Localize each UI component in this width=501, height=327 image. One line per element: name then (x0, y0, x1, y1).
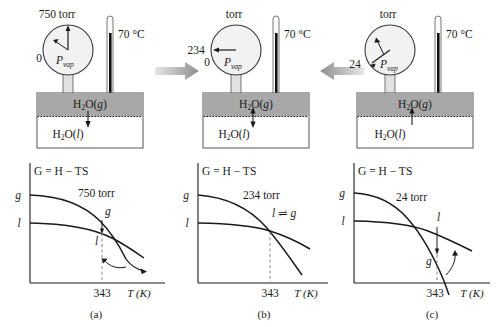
liquid-curve-label-a: l (95, 235, 98, 247)
gas-curve-label-a: g (105, 205, 111, 218)
liquid-phase-label-c: H2O(l) (374, 128, 405, 142)
process-direction-arc-c (446, 253, 455, 275)
gas-curve-c (354, 193, 449, 295)
panel-caption-b: (b) (258, 308, 271, 321)
y-tick-gas-b: g (183, 189, 189, 202)
liquid-curve-label-c: l (437, 211, 440, 223)
liquid-phase-label-b: H2O(l) (218, 128, 249, 142)
y-tick-liquid-c: l (341, 215, 344, 227)
axis-expression-b: G = H − TS (202, 165, 256, 177)
free-energy-graph-b: G = H − TS 234 torr l ⇌ g g l 343 T (K) … (168, 155, 343, 327)
pressure-annotation-a: 750 torr (78, 187, 115, 199)
apparatus-panel-c: torr 24 Pvap 70 °C H2O(g) H2O(l) (322, 0, 501, 160)
free-energy-graph-a: G = H − TS 750 torr g l g l 343 T (K) (a… (0, 155, 175, 327)
gas-phase-label-b: H2O(g) (239, 98, 273, 112)
gas-phase-label-a: H2O(g) (73, 98, 107, 112)
pressure-annotation-b: 234 torr (243, 189, 280, 201)
gauge-zero-label-b: 0 (204, 56, 210, 68)
thermometer-reading-b: 70 °C (284, 28, 311, 40)
axis-expression-a: G = H − TS (34, 165, 88, 177)
pressure-annotation-c: 24 torr (396, 191, 427, 203)
gas-curve-arrow-a (141, 269, 148, 275)
gas-phase-label-c: H2O(g) (398, 98, 432, 112)
x-tick-343-c: 343 (426, 287, 444, 299)
free-energy-graph-c: G = H − TS 24 torr l g g l 343 T (K) (c) (322, 155, 501, 327)
liquid-curve-b (198, 223, 310, 249)
panel-caption-a: (a) (90, 308, 103, 321)
thermometer-reading-a: 70 °C (118, 28, 145, 40)
spontaneity-arrow-head-c (435, 249, 439, 256)
apparatus-panel-a: 750 torr 0 Pvap 70 °C H2O(g) H2O(l) (0, 0, 170, 160)
gas-curve-label-c: g (426, 255, 432, 268)
y-tick-gas-c: g (339, 187, 345, 200)
gauge-unit-label-b: torr (226, 8, 243, 20)
y-tick-liquid-b: l (185, 217, 188, 229)
axis-expression-c: G = H − TS (358, 165, 412, 177)
x-axis-label-a: T (K) (127, 287, 151, 300)
gauge-unit-label-c: torr (380, 8, 397, 20)
x-axis-label-c: T (K) (460, 287, 484, 300)
x-tick-343-a: 343 (93, 287, 111, 299)
liquid-phase-label-a: H2O(l) (52, 128, 83, 142)
gauge-pressure-label-c: 24 (349, 58, 361, 70)
equilibrium-label-b: l ⇌ g (272, 207, 297, 220)
gauge-pressure-label-a: 750 torr (39, 8, 76, 20)
liquid-curve-a (30, 223, 144, 258)
gauge-zero-label-a: 0 (36, 52, 42, 64)
y-tick-gas-a: g (15, 189, 21, 202)
x-axis-label-b: T (K) (294, 287, 318, 300)
thermometer-reading-c: 70 °C (446, 28, 473, 40)
process-direction-arc-a (104, 260, 126, 268)
y-tick-liquid-a: l (17, 217, 20, 229)
x-tick-343-b: 343 (261, 287, 279, 299)
gauge-pressure-label-b: 234 (187, 44, 205, 56)
panel-caption-c: (c) (426, 308, 439, 321)
process-direction-arrow-c (452, 250, 458, 256)
